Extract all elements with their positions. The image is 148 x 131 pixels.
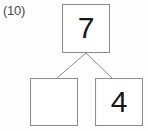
number-bond-worksheet-item: (10) 7 4 xyxy=(0,0,148,131)
part-box-right[interactable]: 4 xyxy=(95,78,143,126)
part-box-right-value: 4 xyxy=(111,87,128,117)
connector-line-right xyxy=(86,53,112,78)
connector-line-left xyxy=(57,53,86,78)
whole-box-value: 7 xyxy=(78,13,95,43)
part-box-left[interactable] xyxy=(30,78,78,126)
whole-box[interactable]: 7 xyxy=(62,4,110,53)
